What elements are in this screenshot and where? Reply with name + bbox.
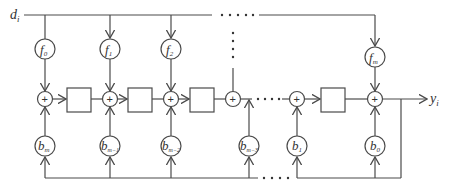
f-node-2: f2 bbox=[161, 39, 181, 59]
f-node-0: f0 bbox=[35, 39, 55, 59]
adder-3: + bbox=[164, 92, 179, 107]
adder-2: + bbox=[103, 92, 118, 107]
b-node-m: bm bbox=[35, 136, 55, 156]
delay-box-3 bbox=[190, 88, 214, 112]
svg-text:+: + bbox=[107, 93, 113, 105]
svg-text:+: + bbox=[42, 93, 48, 105]
middle-ellipsis bbox=[257, 98, 280, 100]
b-node-0: b0 bbox=[365, 136, 385, 156]
vertical-ellipsis bbox=[232, 32, 234, 58]
svg-text:+: + bbox=[294, 93, 300, 105]
svg-text:+: + bbox=[168, 93, 174, 105]
svg-text:+: + bbox=[372, 93, 378, 105]
delay-box-4 bbox=[321, 88, 345, 112]
delay-box-2 bbox=[128, 88, 152, 112]
adder-5: + bbox=[290, 92, 305, 107]
b-node-m-2: bm−2 bbox=[161, 136, 181, 156]
f-node-1: f1 bbox=[100, 39, 120, 59]
input-label: di bbox=[10, 7, 20, 24]
adder-out: + bbox=[368, 92, 383, 107]
f-node-m: fm bbox=[365, 47, 385, 67]
svg-text:+: + bbox=[230, 93, 236, 105]
diagram-svg: di f0 f1 f2 fm + + + + + + bbox=[0, 0, 451, 191]
delay-box-1 bbox=[67, 88, 91, 112]
filter-diagram: di f0 f1 f2 fm + + + + + + bbox=[0, 0, 451, 191]
b-node-m-3: bm−3 bbox=[239, 136, 259, 156]
top-ellipsis bbox=[221, 14, 254, 16]
b-node-m-1: bm−1 bbox=[100, 136, 120, 156]
b-node-1: b1 bbox=[287, 136, 307, 156]
output-label: yi bbox=[428, 91, 439, 108]
adder-4: + bbox=[226, 92, 241, 107]
bottom-ellipsis bbox=[263, 177, 289, 179]
adder-1: + bbox=[38, 92, 53, 107]
